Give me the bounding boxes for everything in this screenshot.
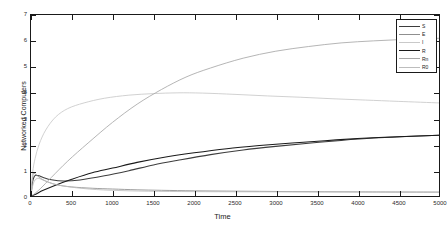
- x-tick-mark-top: [195, 15, 196, 20]
- legend[interactable]: SEIRRnR0: [396, 19, 437, 73]
- y-tick-mark: [31, 15, 36, 16]
- legend-swatch-R0: [399, 67, 420, 68]
- legend-item-Rn[interactable]: Rn: [399, 55, 434, 63]
- y-tick-mark-right: [434, 15, 439, 16]
- y-tick-mark-right: [434, 172, 439, 173]
- y-tick-mark: [31, 146, 36, 147]
- legend-item-E[interactable]: E: [399, 30, 434, 38]
- x-tick-mark: [359, 191, 360, 196]
- x-tick-mark: [318, 191, 319, 196]
- legend-label-R: R: [422, 48, 426, 54]
- legend-item-R0[interactable]: R0: [399, 63, 434, 71]
- x-tick-mark-top: [318, 15, 319, 20]
- x-tick-label: 4000: [351, 200, 364, 207]
- legend-label-I: I: [422, 39, 423, 45]
- x-tick-label: 5000: [433, 200, 446, 207]
- legend-swatch-Rn: [399, 58, 420, 59]
- legend-label-S: S: [422, 23, 425, 29]
- y-tick-mark-right: [434, 120, 439, 121]
- y-tick-label: 3: [18, 115, 27, 122]
- y-tick-label: 1: [18, 167, 27, 174]
- y-tick-mark: [31, 67, 36, 68]
- legend-item-S[interactable]: S: [399, 22, 434, 30]
- legend-label-R0: R0: [422, 64, 428, 70]
- x-tick-label: 3500: [310, 200, 323, 207]
- x-tick-mark: [31, 191, 32, 196]
- x-tick-label: 0: [28, 200, 31, 207]
- plot-lines: [31, 15, 439, 196]
- x-tick-label: 3000: [269, 200, 282, 207]
- x-tick-mark-top: [359, 15, 360, 20]
- y-tick-mark: [31, 172, 36, 173]
- y-tick-label: 4: [18, 89, 27, 96]
- plot-area: [30, 14, 440, 197]
- legend-label-E: E: [422, 31, 425, 37]
- y-tick-mark: [31, 120, 36, 121]
- x-tick-mark: [236, 191, 237, 196]
- x-tick-mark-top: [236, 15, 237, 20]
- legend-item-R[interactable]: R: [399, 47, 434, 55]
- x-tick-label: 1500: [146, 200, 159, 207]
- x-tick-label: 2000: [187, 200, 200, 207]
- x-tick-mark-top: [72, 15, 73, 20]
- x-tick-mark-top: [154, 15, 155, 20]
- x-axis-title: Time: [0, 212, 445, 221]
- series-line-R: [31, 135, 439, 196]
- legend-swatch-S: [399, 26, 420, 27]
- x-tick-label: 4500: [392, 200, 405, 207]
- x-tick-mark: [72, 191, 73, 196]
- legend-swatch-R: [399, 50, 420, 51]
- y-tick-label: 5: [18, 63, 27, 70]
- x-tick-label: 2500: [228, 200, 241, 207]
- legend-swatch-I: [399, 42, 420, 43]
- x-tick-mark: [277, 191, 278, 196]
- x-tick-mark: [400, 191, 401, 196]
- x-tick-mark: [195, 191, 196, 196]
- y-tick-mark: [31, 41, 36, 42]
- series-line-R0: [31, 178, 439, 195]
- y-tick-mark: [31, 93, 36, 94]
- legend-swatch-E: [399, 34, 420, 35]
- y-tick-label: 6: [18, 37, 27, 44]
- x-tick-mark-top: [113, 15, 114, 20]
- x-tick-label: 1000: [105, 200, 118, 207]
- legend-label-Rn: Rn: [422, 56, 428, 62]
- series-line-S: [31, 135, 439, 194]
- x-tick-mark: [154, 191, 155, 196]
- y-tick-label: 7: [18, 11, 27, 18]
- y-tick-mark-right: [434, 93, 439, 94]
- legend-item-I[interactable]: I: [399, 38, 434, 46]
- x-tick-mark: [113, 191, 114, 196]
- x-tick-mark-top: [277, 15, 278, 20]
- series-line-I: [31, 93, 439, 195]
- y-tick-label: 0: [18, 194, 27, 201]
- y-tick-label: 2: [18, 141, 27, 148]
- x-tick-label: 500: [66, 200, 76, 207]
- y-tick-mark-right: [434, 146, 439, 147]
